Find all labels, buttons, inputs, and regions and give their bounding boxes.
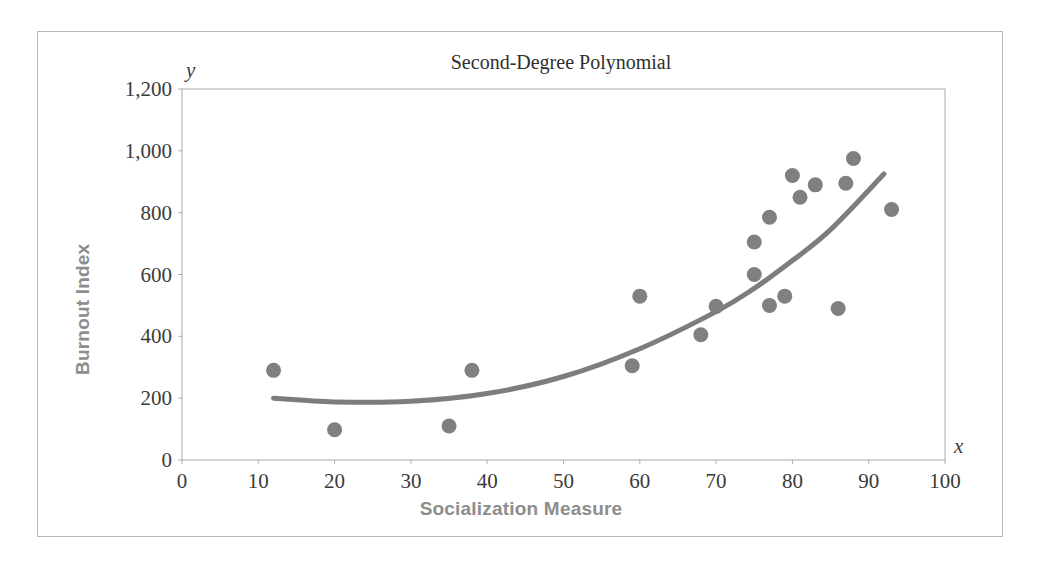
y-tick-label: 600: [90, 262, 172, 287]
x-tick-label: 10: [248, 469, 269, 494]
y-tick-label: 0: [90, 448, 172, 473]
x-tick-label: 70: [706, 469, 727, 494]
axes-group: [178, 89, 945, 464]
page-title: Second-Degree Polynomial: [0, 51, 1042, 74]
trendline: [274, 174, 884, 402]
x-tick-label: 80: [782, 469, 803, 494]
x-tick-label: 90: [858, 469, 879, 494]
chart-plot-area: Second-Degree Polynomial Socialization M…: [0, 0, 1042, 568]
figure-container: Second-Degree Polynomial Socialization M…: [0, 0, 1042, 568]
y-tick-label: 1,000: [90, 138, 172, 163]
y-tick-label: 1,200: [90, 77, 172, 102]
y-axis-letter: y: [186, 58, 195, 83]
x-tick-label: 40: [477, 469, 498, 494]
x-tick-label: 60: [629, 469, 650, 494]
x-tick-label: 30: [400, 469, 421, 494]
x-tick-label: 0: [177, 469, 188, 494]
y-tick-label: 400: [90, 324, 172, 349]
y-tick-label: 800: [90, 200, 172, 225]
x-axis-title: Socialization Measure: [0, 498, 1042, 520]
x-tick-label: 100: [929, 469, 961, 494]
scatter-points: [266, 151, 899, 437]
x-tick-label: 20: [324, 469, 345, 494]
x-axis-letter: x: [954, 434, 963, 459]
y-tick-label: 200: [90, 386, 172, 411]
x-tick-label: 50: [553, 469, 574, 494]
